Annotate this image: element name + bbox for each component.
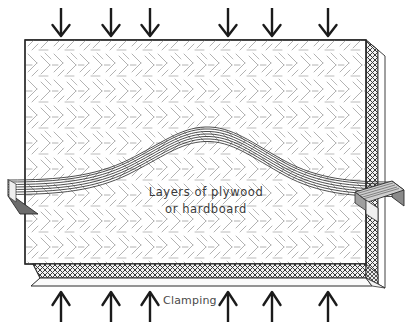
arrow-up-icon	[320, 292, 337, 322]
bottom-clamp-bar	[31, 264, 385, 288]
clamping-label: Clamping	[163, 294, 217, 307]
material-label-line2: or hardboard	[165, 202, 247, 216]
arrow-down-icon	[142, 8, 159, 36]
press-block-body	[25, 40, 366, 264]
arrow-down-icon	[103, 8, 120, 36]
top-clamping-arrows	[53, 8, 337, 36]
arrow-up-icon	[220, 292, 237, 322]
diagram-canvas: Layers of plywood or hardboard Clamping	[0, 0, 412, 329]
arrow-up-icon	[103, 292, 120, 322]
clamping-diagram: Layers of plywood or hardboard Clamping	[0, 0, 412, 329]
arrow-down-icon	[320, 8, 337, 36]
arrow-up-icon	[264, 292, 281, 322]
material-label-line1: Layers of plywood	[149, 185, 264, 199]
arrow-down-icon	[53, 8, 70, 36]
arrow-down-icon	[264, 8, 281, 36]
arrow-down-icon	[220, 8, 237, 36]
arrow-up-icon	[142, 292, 159, 322]
arrow-up-icon	[53, 292, 70, 322]
